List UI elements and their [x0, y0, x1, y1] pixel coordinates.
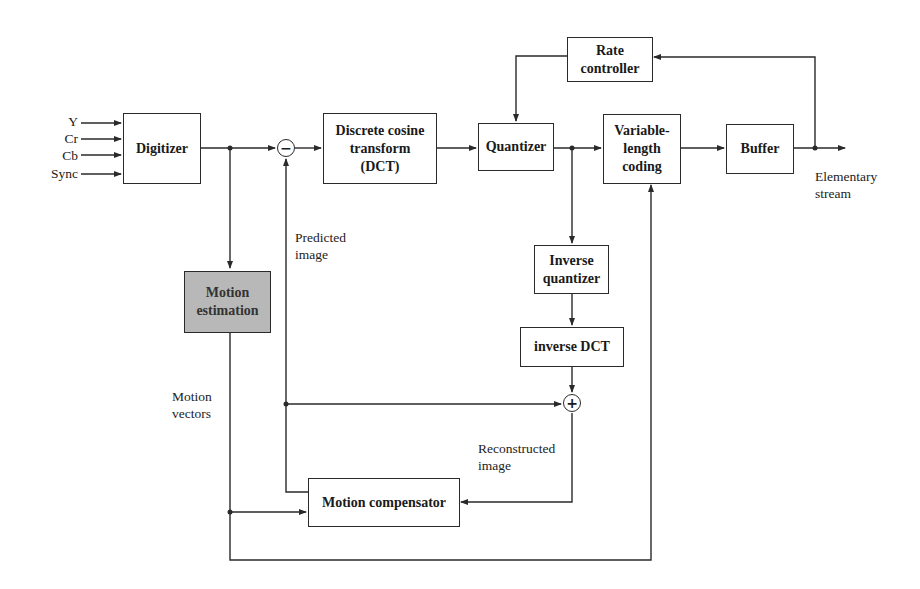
dct-block: Discrete cosine transform (DCT): [323, 113, 437, 184]
motion-compensator-block: Motion compensator: [308, 478, 460, 527]
input-cb: Cb: [38, 148, 78, 164]
add-operator-icon: +: [563, 394, 581, 412]
reconstructed-image-label: Reconstructed image: [478, 440, 555, 474]
input-cr: Cr: [38, 131, 78, 147]
motion-vectors-label: Motion vectors: [172, 388, 212, 422]
input-y: Y: [38, 114, 78, 130]
connection-wires: [0, 0, 920, 589]
elementary-stream-label: Elementary stream: [815, 168, 877, 202]
inverse-dct-block: inverse DCT: [520, 327, 624, 367]
digitizer-label: Digitizer: [136, 140, 188, 158]
motion-estimation-block: Motion estimation: [184, 271, 271, 333]
digitizer-block: Digitizer: [123, 113, 201, 184]
input-sync: Sync: [38, 166, 78, 182]
buffer-block: Buffer: [726, 124, 794, 174]
variable-length-coding-block: Variable- length coding: [603, 114, 681, 184]
subtract-operator-icon: −: [277, 139, 295, 157]
inverse-quantizer-block: Inverse quantizer: [534, 245, 609, 294]
quantizer-block: Quantizer: [478, 123, 554, 171]
rate-controller-block: Rate controller: [567, 37, 653, 82]
predicted-image-label: Predicted image: [295, 229, 346, 263]
